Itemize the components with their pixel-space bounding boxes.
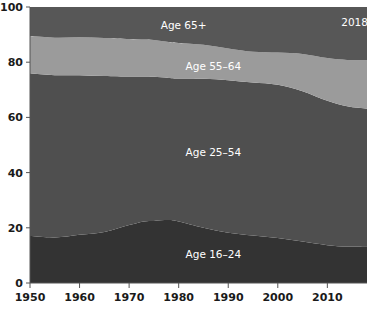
x-tick-label: 1970 bbox=[114, 291, 145, 304]
series-label-age-65-: Age 65+ bbox=[161, 19, 207, 31]
y-tick-label: 40 bbox=[8, 167, 24, 180]
x-axis: 1950196019701980199020002010 bbox=[15, 283, 367, 304]
x-tick-label: 1980 bbox=[163, 291, 194, 304]
year-annotation: 2018 bbox=[341, 16, 368, 28]
y-tick-label: 100 bbox=[0, 1, 23, 14]
y-tick-label: 80 bbox=[8, 56, 24, 69]
y-tick-label: 20 bbox=[8, 222, 24, 235]
series-label-age-25-54: Age 25–54 bbox=[186, 146, 242, 158]
x-tick-label: 2010 bbox=[312, 291, 343, 304]
area-series-age-25-54 bbox=[30, 73, 367, 246]
x-tick-label: 1990 bbox=[213, 291, 244, 304]
annotations: 2018 bbox=[341, 16, 368, 28]
chart-canvas: 020406080100 195019601970198019902000201… bbox=[0, 0, 378, 313]
x-tick-label: 1960 bbox=[64, 291, 95, 304]
stacked-area-chart: 020406080100 195019601970198019902000201… bbox=[0, 0, 378, 313]
series-label-age-16-24: Age 16–24 bbox=[186, 248, 242, 260]
stacked-areas bbox=[30, 7, 367, 283]
x-tick-label: 2000 bbox=[262, 291, 293, 304]
y-tick-label: 60 bbox=[8, 111, 24, 124]
series-label-age-55-64: Age 55–64 bbox=[186, 60, 242, 72]
y-tick-label: 0 bbox=[15, 277, 23, 290]
y-axis: 020406080100 bbox=[0, 1, 30, 290]
x-tick-label: 1950 bbox=[15, 291, 46, 304]
